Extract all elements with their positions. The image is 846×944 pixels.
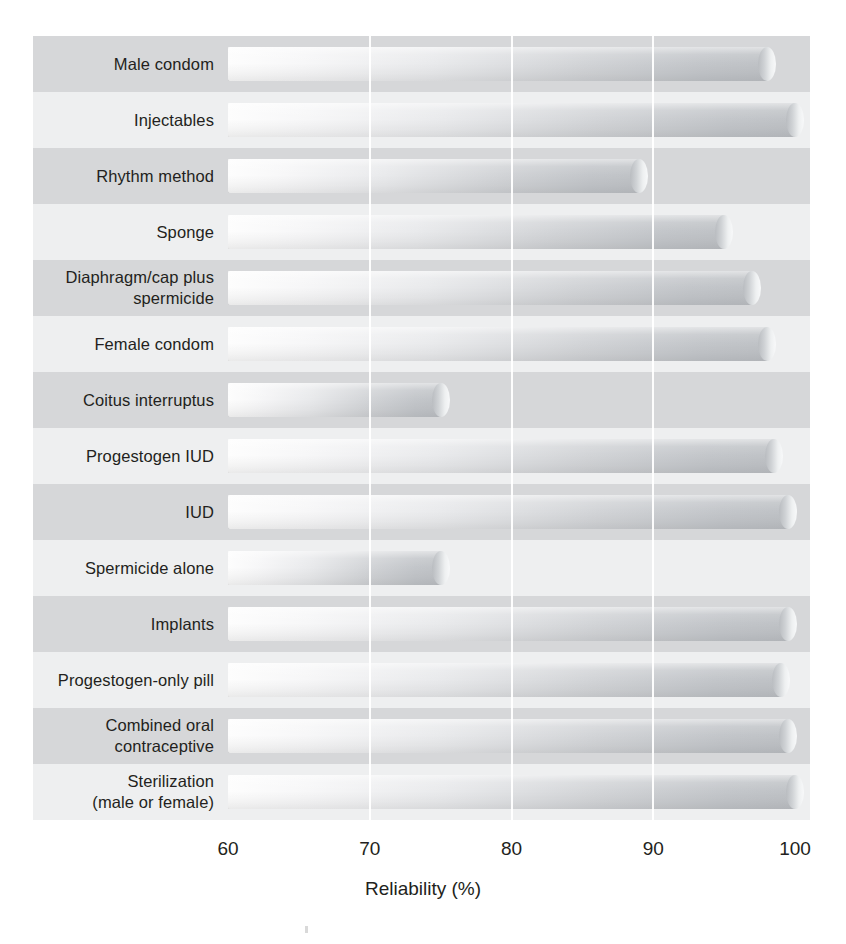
- chart-row: Male condom: [33, 36, 810, 92]
- row-label-line1: Progestogen IUD: [86, 446, 214, 467]
- gridline: [369, 36, 371, 820]
- page-speck: [305, 926, 308, 933]
- row-label: Sterilization(male or female): [0, 764, 222, 820]
- row-label-line1: Spermicide alone: [85, 558, 214, 579]
- bar-shading: [228, 215, 724, 249]
- bar: [228, 215, 724, 249]
- bar: [228, 327, 767, 361]
- chart-row: Female condom: [33, 316, 810, 372]
- plot-area: Male condomInjectablesRhythm methodSpong…: [33, 36, 810, 820]
- row-label-line1: Rhythm method: [96, 166, 214, 187]
- bar-end-cap: [772, 663, 790, 697]
- row-label-line1: IUD: [185, 502, 214, 523]
- chart-row: Injectables: [33, 92, 810, 148]
- row-label: Injectables: [0, 92, 222, 148]
- row-label-line1: Combined oral: [105, 715, 214, 736]
- chart-row: Sterilization(male or female): [33, 764, 810, 820]
- gridline: [652, 36, 654, 820]
- row-label: Sponge: [0, 204, 222, 260]
- bar-end-cap: [779, 607, 797, 641]
- row-label: IUD: [0, 484, 222, 540]
- bar: [228, 495, 788, 529]
- gridline: [511, 36, 513, 820]
- x-tick-label: 70: [359, 838, 380, 860]
- bar: [228, 439, 774, 473]
- bar-end-cap: [779, 719, 797, 753]
- row-label: Female condom: [0, 316, 222, 372]
- chart-row: Spermicide alone: [33, 540, 810, 596]
- x-tick-label: 60: [217, 838, 238, 860]
- bar: [228, 383, 441, 417]
- row-label: Combined oralcontraceptive: [0, 708, 222, 764]
- bar-shading: [228, 607, 788, 641]
- row-label-line2: contraceptive: [115, 736, 214, 757]
- bar-end-cap: [715, 215, 733, 249]
- chart-row: Coitus interruptus: [33, 372, 810, 428]
- bar-end-cap: [758, 47, 776, 81]
- row-label-line1: Female condom: [94, 334, 214, 355]
- bar: [228, 663, 781, 697]
- row-label-line1: Progestogen-only pill: [58, 670, 214, 691]
- bar-shading: [228, 439, 774, 473]
- row-label: Rhythm method: [0, 148, 222, 204]
- chart-row: Sponge: [33, 204, 810, 260]
- bar-shading: [228, 383, 441, 417]
- bar-end-cap: [743, 271, 761, 305]
- chart-row: Progestogen-only pill: [33, 652, 810, 708]
- bar: [228, 47, 767, 81]
- chart-row: IUD: [33, 484, 810, 540]
- reliability-bar-chart: Male condomInjectablesRhythm methodSpong…: [0, 0, 846, 944]
- bar: [228, 271, 752, 305]
- bar-end-cap: [765, 439, 783, 473]
- chart-row: Progestogen IUD: [33, 428, 810, 484]
- row-label-line1: Male condom: [114, 54, 214, 75]
- bar: [228, 607, 788, 641]
- row-label: Spermicide alone: [0, 540, 222, 596]
- bar-end-cap: [432, 551, 450, 585]
- row-label: Male condom: [0, 36, 222, 92]
- x-tick-label: 80: [501, 838, 522, 860]
- chart-row: Combined oralcontraceptive: [33, 708, 810, 764]
- bar-end-cap: [758, 327, 776, 361]
- row-label: Progestogen-only pill: [0, 652, 222, 708]
- row-label-line2: spermicide: [133, 288, 214, 309]
- x-axis-tick-labels: 60708090100: [0, 838, 846, 864]
- bar-end-cap: [779, 495, 797, 529]
- row-label-line1: Injectables: [134, 110, 214, 131]
- bar-end-cap: [786, 775, 804, 809]
- row-label-line1: Sponge: [157, 222, 215, 243]
- x-tick-label: 100: [779, 838, 811, 860]
- row-label-line2: (male or female): [92, 792, 214, 813]
- row-label-line1: Sterilization: [127, 771, 214, 792]
- row-label-line1: Coitus interruptus: [83, 390, 214, 411]
- bar-shading: [228, 327, 767, 361]
- bar-shading: [228, 271, 752, 305]
- row-label: Implants: [0, 596, 222, 652]
- chart-row: Rhythm method: [33, 148, 810, 204]
- chart-row: Implants: [33, 596, 810, 652]
- bar-shading: [228, 719, 788, 753]
- row-label: Diaphragm/cap plusspermicide: [0, 260, 222, 316]
- bar: [228, 551, 441, 585]
- bar-end-cap: [432, 383, 450, 417]
- bar-shading: [228, 47, 767, 81]
- bar-shading: [228, 495, 788, 529]
- bar-shading: [228, 663, 781, 697]
- bar: [228, 719, 788, 753]
- row-label-line1: Implants: [151, 614, 214, 635]
- bar-end-cap: [786, 103, 804, 137]
- row-label: Progestogen IUD: [0, 428, 222, 484]
- row-label-line1: Diaphragm/cap plus: [65, 267, 214, 288]
- bar-shading: [228, 551, 441, 585]
- row-label: Coitus interruptus: [0, 372, 222, 428]
- x-axis-title: Reliability (%): [0, 878, 846, 900]
- chart-row: Diaphragm/cap plusspermicide: [33, 260, 810, 316]
- bar-end-cap: [630, 159, 648, 193]
- x-tick-label: 90: [643, 838, 664, 860]
- bar-shading: [228, 159, 639, 193]
- bar: [228, 159, 639, 193]
